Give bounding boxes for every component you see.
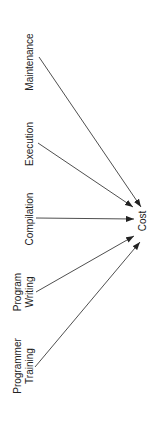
node-programmer-training-line1: Programmer [12, 338, 23, 394]
node-program-writing-line2: Writing [24, 277, 35, 308]
node-compilation: Compilation [24, 193, 35, 246]
node-program-writing-line1: Program [12, 273, 23, 311]
arrow-program-writing-to-cost [36, 236, 134, 292]
node-execution: Execution [24, 122, 35, 166]
node-programmer-training-line2: Training [24, 348, 35, 384]
arrow-execution-to-cost [38, 143, 133, 207]
arrow-compilation-to-cost [36, 218, 134, 219]
arrow-programmer-training-to-cost [35, 242, 140, 367]
node-maintenance: Maintenance [24, 33, 35, 91]
node-cost: Cost [137, 210, 148, 231]
arrow-maintenance-to-cost [39, 57, 141, 207]
cost-influence-diagram: Maintenance Execution Compilation Progra… [0, 0, 153, 428]
